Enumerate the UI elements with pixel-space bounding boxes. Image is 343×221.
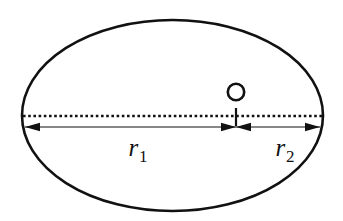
ellipse-radii-diagram: r1 r2 — [0, 0, 343, 221]
figure-background — [0, 0, 343, 221]
figure-root: r1 r2 — [0, 0, 343, 221]
